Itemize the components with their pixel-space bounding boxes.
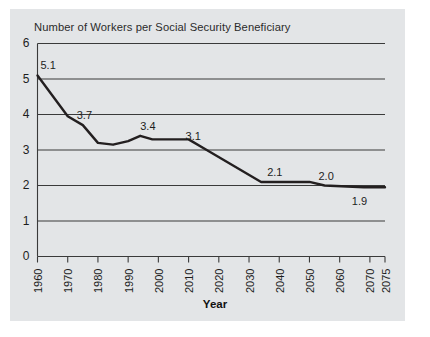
y-tick-label-2: 2 <box>14 178 30 192</box>
x-tick-label-1990: 1990 <box>123 268 135 292</box>
x-tick-label-2040: 2040 <box>274 268 286 292</box>
value-label-1.9: 1.9 <box>352 195 367 207</box>
x-tick-label-2020: 2020 <box>213 268 225 292</box>
x-tick-label-2010: 2010 <box>183 268 195 292</box>
chart-figure: Number of Workers per Social Security Be… <box>0 0 430 337</box>
x-tick-label-2070: 2070 <box>364 268 376 292</box>
value-label-2.1: 2.1 <box>267 166 282 178</box>
x-axis-title: Year <box>0 298 430 310</box>
x-axis-ticks <box>38 257 386 263</box>
value-label-3.4: 3.4 <box>140 120 155 132</box>
x-tick-label-2000: 2000 <box>153 268 165 292</box>
value-label-3.7: 3.7 <box>77 109 92 121</box>
value-label-5.1: 5.1 <box>41 59 56 71</box>
x-tick-label-2075: 2075 <box>380 268 392 292</box>
y-tick-label-1: 1 <box>14 214 30 228</box>
x-tick-label-2050: 2050 <box>304 268 316 292</box>
x-tick-label-2030: 2030 <box>244 268 256 292</box>
y-tick-label-5: 5 <box>14 72 30 86</box>
y-tick-label-0: 0 <box>14 249 30 263</box>
value-label-3.1: 3.1 <box>186 130 201 142</box>
y-tick-label-4: 4 <box>14 107 30 121</box>
x-tick-label-1960: 1960 <box>32 268 44 292</box>
value-label-2.0: 2.0 <box>319 170 334 182</box>
x-tick-label-1970: 1970 <box>62 268 74 292</box>
x-tick-label-2060: 2060 <box>334 268 346 292</box>
x-tick-label-1980: 1980 <box>92 268 104 292</box>
y-tick-label-3: 3 <box>14 143 30 157</box>
y-tick-label-6: 6 <box>14 36 30 50</box>
